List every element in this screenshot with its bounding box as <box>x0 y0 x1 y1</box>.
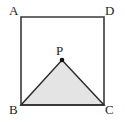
triangle-bpc-fill <box>21 60 104 105</box>
vertex-label-p: P <box>56 44 63 57</box>
point-p-marker <box>60 58 65 63</box>
vertex-label-b: B <box>9 103 18 116</box>
vertex-label-c: C <box>105 103 114 116</box>
vertex-label-d: D <box>105 4 114 17</box>
geometry-figure: A D B C P <box>0 0 125 122</box>
vertex-label-a: A <box>9 4 18 17</box>
